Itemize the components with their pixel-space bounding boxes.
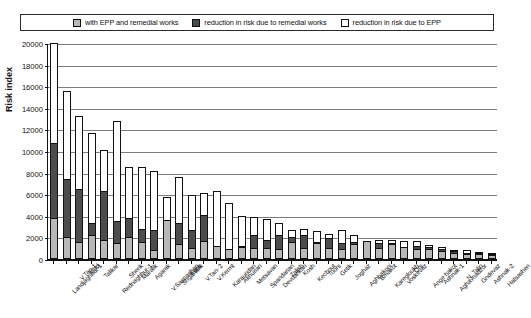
bar-segment bbox=[363, 241, 371, 259]
bar-segment bbox=[325, 248, 333, 259]
bar-segment bbox=[75, 116, 83, 188]
bar-segment bbox=[250, 235, 258, 249]
square-grey-swatch-icon bbox=[73, 19, 81, 27]
x-axis-labels: Landjaghbur-1V.Tan-1IrindTalikarRednaghb… bbox=[47, 262, 497, 318]
bar-segment bbox=[200, 241, 208, 259]
y-axis-tick-label: 0 bbox=[39, 256, 43, 265]
bar-segment bbox=[350, 244, 358, 259]
bar-segment bbox=[200, 215, 208, 240]
legend-entry-epp: reduction in risk due to EPP bbox=[341, 18, 441, 27]
bar-stack bbox=[188, 195, 196, 259]
bar-stack bbox=[75, 116, 83, 259]
y-axis-tick-label: 4000 bbox=[26, 212, 43, 221]
x-axis-tick-label: Getik bbox=[338, 262, 353, 277]
bar-segment bbox=[338, 230, 346, 243]
bar-segment bbox=[175, 244, 183, 259]
bar-segment bbox=[100, 191, 108, 240]
bar-stack bbox=[288, 230, 296, 259]
bar-segment bbox=[150, 171, 158, 229]
bar-stack bbox=[338, 230, 346, 259]
bar-stack bbox=[238, 216, 246, 259]
bar-stack bbox=[300, 229, 308, 259]
bar-stack bbox=[388, 240, 396, 259]
legend-label: reduction in risk due to EPP bbox=[353, 18, 441, 27]
bar-segment bbox=[125, 218, 133, 237]
bar-segment bbox=[438, 251, 446, 259]
bar-stack bbox=[363, 241, 371, 259]
bar-segment bbox=[263, 219, 271, 240]
bar-stack bbox=[200, 193, 208, 259]
bar-segment bbox=[88, 235, 96, 259]
bar-segment bbox=[213, 191, 221, 246]
bar-segment bbox=[263, 240, 271, 249]
legend-label: with EPP and remedial works bbox=[85, 18, 178, 27]
y-axis-tick-label: 8000 bbox=[26, 169, 43, 178]
bar-segment bbox=[113, 121, 121, 221]
bar-segment bbox=[225, 203, 233, 249]
bar-segment bbox=[388, 244, 396, 259]
bar-stack bbox=[213, 191, 221, 259]
y-axis-tick-label: 20000 bbox=[22, 40, 43, 49]
bar-series-container bbox=[48, 44, 497, 259]
bar-stack bbox=[138, 167, 146, 259]
y-axis-tick-label: 2000 bbox=[26, 234, 43, 243]
square-white-swatch-icon bbox=[341, 19, 349, 27]
x-axis-tick-label: Talikar bbox=[102, 262, 119, 279]
bar-segment bbox=[213, 246, 221, 259]
bar-segment bbox=[275, 223, 283, 235]
bar-stack bbox=[163, 197, 171, 259]
bar-stack bbox=[488, 253, 496, 259]
bar-segment bbox=[175, 223, 183, 244]
bar-stack bbox=[350, 235, 358, 259]
y-axis-tick-label: 10000 bbox=[22, 148, 43, 157]
legend-label: reduction in risk due to remedial works bbox=[204, 18, 326, 27]
bar-segment bbox=[425, 249, 433, 259]
y-axis-tick-label: 14000 bbox=[22, 104, 43, 113]
bar-segment bbox=[225, 249, 233, 259]
bar-segment bbox=[238, 247, 246, 259]
bar-segment bbox=[250, 217, 258, 234]
bar-segment bbox=[413, 249, 421, 259]
bar-segment bbox=[138, 242, 146, 259]
bar-segment bbox=[200, 193, 208, 215]
bar-segment bbox=[275, 249, 283, 259]
y-axis-title: Risk index bbox=[4, 67, 14, 112]
bar-segment bbox=[50, 143, 58, 218]
bar-segment bbox=[75, 242, 83, 259]
square-dark-swatch-icon bbox=[192, 19, 200, 27]
plot-area: 0200040006000800010000120001400016000180… bbox=[47, 44, 497, 260]
bar-segment bbox=[50, 43, 58, 143]
bar-segment bbox=[150, 250, 158, 259]
legend-entry-remedial-works: reduction in risk due to remedial works bbox=[192, 18, 326, 27]
bar-segment bbox=[275, 235, 283, 250]
bar-segment bbox=[63, 237, 71, 259]
bar-segment bbox=[288, 230, 296, 238]
bar-stack bbox=[150, 171, 158, 259]
bar-stack bbox=[88, 133, 96, 259]
bar-segment bbox=[75, 189, 83, 242]
bar-segment bbox=[100, 240, 108, 259]
bar-segment bbox=[188, 248, 196, 259]
bar-segment bbox=[313, 231, 321, 242]
bar-segment bbox=[350, 235, 358, 243]
bar-stack bbox=[100, 150, 108, 259]
bar-segment bbox=[300, 235, 308, 249]
bar-stack bbox=[400, 241, 408, 259]
bar-segment bbox=[488, 255, 496, 259]
y-axis-tick-label: 12000 bbox=[22, 126, 43, 135]
bar-segment bbox=[88, 223, 96, 234]
chart-legend: with EPP and remedial works reduction in… bbox=[20, 14, 494, 31]
bar-segment bbox=[100, 150, 108, 191]
bar-stack bbox=[463, 250, 471, 259]
bar-segment bbox=[475, 254, 483, 259]
bar-segment bbox=[50, 218, 58, 259]
bar-segment bbox=[88, 133, 96, 224]
bar-stack bbox=[413, 241, 421, 259]
bar-stack bbox=[225, 203, 233, 259]
bar-stack bbox=[325, 234, 333, 259]
bar-segment bbox=[63, 179, 71, 237]
bar-stack bbox=[425, 245, 433, 259]
y-axis-tick-label: 6000 bbox=[26, 191, 43, 200]
bar-segment bbox=[375, 248, 383, 259]
